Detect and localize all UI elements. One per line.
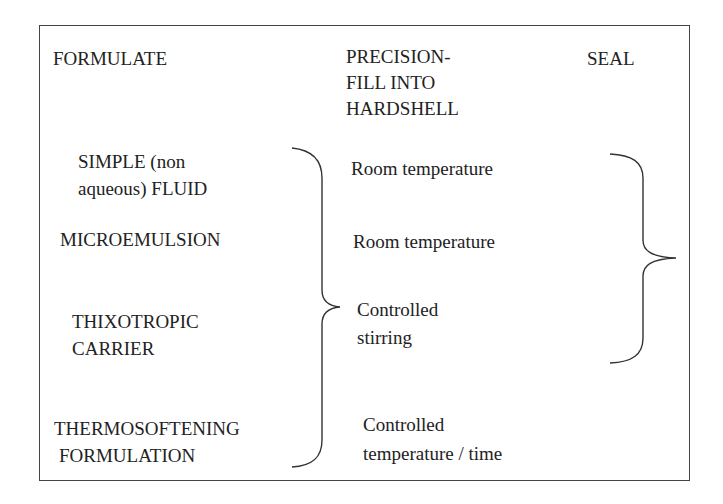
brace-layer (0, 0, 723, 504)
left-brace-icon (292, 148, 340, 467)
right-brace-icon (610, 154, 676, 363)
